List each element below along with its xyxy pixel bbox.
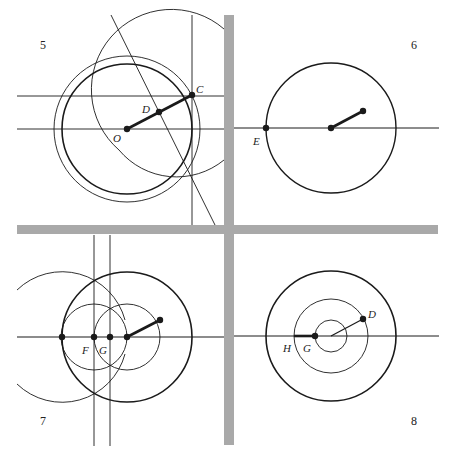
panel7-radius-segment xyxy=(127,320,160,337)
panel6-segment-end-point xyxy=(360,108,366,114)
point-o xyxy=(124,126,130,132)
panel8-number: 8 xyxy=(411,414,417,428)
point-g xyxy=(107,334,113,340)
label-c: C xyxy=(196,83,204,95)
panel7-center-point xyxy=(124,334,130,340)
label-g: G xyxy=(99,344,107,356)
point-d xyxy=(156,109,162,115)
panel-6 xyxy=(234,63,439,193)
panel6-radius-segment xyxy=(331,111,363,128)
label-f: F xyxy=(81,344,89,356)
point-e xyxy=(263,125,269,131)
horizontal-divider xyxy=(17,225,438,234)
point-f xyxy=(91,334,97,340)
panel6-number: 6 xyxy=(411,38,417,52)
label-d-panel8: D xyxy=(367,308,376,320)
point-c xyxy=(189,92,195,98)
panel6-center-point xyxy=(328,125,334,131)
point-d-panel8 xyxy=(360,316,366,322)
figure-canvas: 5 O D C 6 E 7 F G xyxy=(0,0,455,460)
panel5-arc-lower xyxy=(119,150,224,177)
point-g-panel8 xyxy=(312,333,318,339)
label-g-panel8: G xyxy=(303,342,311,354)
label-h: H xyxy=(282,342,292,354)
panel-8 xyxy=(234,271,439,401)
panel7-point-left xyxy=(59,334,65,340)
panel-7 xyxy=(17,235,224,446)
label-o: O xyxy=(113,132,121,144)
geometric-construction-figure: 5 O D C 6 E 7 F G xyxy=(0,0,455,460)
panel7-segment-end-point xyxy=(157,317,163,323)
panel5-number: 5 xyxy=(40,38,46,52)
label-d: D xyxy=(141,103,150,115)
label-e: E xyxy=(252,135,260,147)
panel-5 xyxy=(17,9,224,225)
panel7-number: 7 xyxy=(40,414,46,428)
